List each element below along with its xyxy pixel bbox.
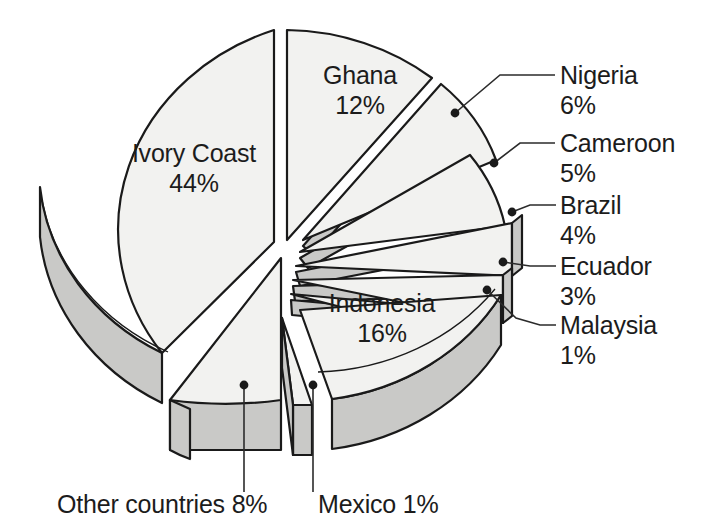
leader-dot-brazil	[508, 208, 517, 217]
slice-label-ivory-coast-percent: 44%	[104, 168, 284, 198]
slice-label-ghana-percent: 12%	[295, 90, 425, 120]
leader-dot-ecuador	[499, 258, 508, 267]
slice-label-cameroon-percent: 5%	[560, 158, 675, 188]
leader-line-cameroon	[490, 143, 555, 167]
leader-dot-cameroon	[490, 159, 499, 168]
slice-label-ivory-coast-name: Ivory Coast	[132, 139, 256, 167]
slice-label-other-countries-text: Other countries 8%	[57, 490, 267, 518]
slice-label-brazil-percent: 4%	[560, 220, 621, 250]
slice-label-indonesia-percent: 16%	[302, 318, 462, 348]
slice-label-nigeria: Nigeria 6%	[560, 60, 638, 120]
slice-label-nigeria-name: Nigeria	[560, 61, 638, 89]
slice-label-cameroon-name: Cameroon	[560, 129, 675, 157]
slice-label-ghana: Ghana 12%	[295, 60, 425, 120]
slice-label-malaysia-name: Malaysia	[560, 311, 657, 339]
pie-chart-figure: .top { fill: #f2f2f0; stroke: #1a1a1a; s…	[0, 0, 704, 531]
slice-label-indonesia: Indonesia 16%	[302, 288, 462, 348]
slice-label-other-countries: Other countries 8%	[57, 489, 267, 519]
slice-label-brazil: Brazil 4%	[560, 190, 621, 250]
slice-label-malaysia-percent: 1%	[560, 340, 657, 370]
slice-label-mexico: Mexico 1%	[318, 489, 438, 519]
slice-label-nigeria-percent: 6%	[560, 90, 638, 120]
slice-label-brazil-name: Brazil	[560, 191, 621, 219]
leader-line-brazil	[508, 205, 556, 216]
slice-label-ecuador-percent: 3%	[560, 281, 652, 311]
slice-label-mexico-text: Mexico 1%	[318, 490, 438, 518]
leader-dot-other-countries	[240, 381, 249, 390]
slice-label-ecuador-name: Ecuador	[560, 252, 652, 280]
slice-label-indonesia-name: Indonesia	[329, 289, 436, 317]
leader-dot-nigeria	[451, 109, 460, 118]
slice-label-ivory-coast: Ivory Coast 44%	[104, 138, 284, 198]
slice-label-cameroon: Cameroon 5%	[560, 128, 675, 188]
slice-label-ecuador: Ecuador 3%	[560, 251, 652, 311]
leader-dot-mexico	[309, 381, 318, 390]
slice-label-ghana-name: Ghana	[323, 61, 397, 89]
leader-dot-malaysia	[483, 286, 492, 295]
slice-label-malaysia: Malaysia 1%	[560, 310, 657, 370]
